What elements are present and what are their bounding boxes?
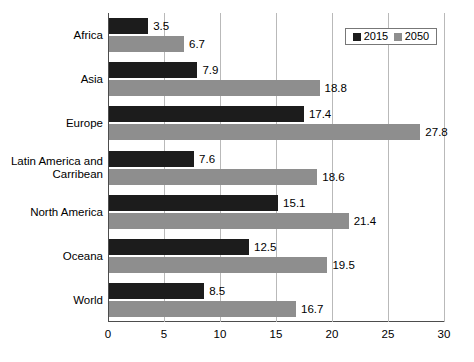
category-label-asia: Asia	[0, 73, 103, 86]
bar-value-label-2050-oceana: 19.5	[332, 257, 354, 273]
bar-2015-north-america	[109, 195, 278, 211]
bar-value-label-2015-north-america: 15.1	[283, 195, 305, 211]
category-label-line: Oceana	[0, 249, 103, 262]
category-label-latin-america-and-carribean: Latin America andCarribean	[0, 155, 103, 181]
bar-2015-world	[109, 283, 204, 299]
bar-2050-latin-america-and-carribean	[109, 169, 317, 185]
bar-2015-africa	[109, 18, 148, 34]
bar-value-label-2050-world: 16.7	[301, 301, 323, 317]
gridline-15	[276, 13, 277, 322]
category-label-line: World	[0, 293, 103, 306]
plot-area: 3.56.77.918.817.427.87.618.615.121.412.5…	[108, 13, 444, 322]
category-label-north-america: North America	[0, 205, 103, 218]
bar-value-label-2050-africa: 6.7	[189, 36, 205, 52]
x-tick-label-5: 5	[144, 327, 184, 341]
legend-swatch-icon-2050	[394, 33, 402, 41]
category-label-africa: Africa	[0, 29, 103, 42]
x-tick-label-20: 20	[312, 327, 352, 341]
gridline-25	[388, 13, 389, 322]
bar-value-label-2050-north-america: 21.4	[354, 213, 376, 229]
bar-2050-asia	[109, 80, 320, 96]
category-label-line: North America	[0, 205, 103, 218]
bar-value-label-2015-europe: 17.4	[309, 106, 331, 122]
legend-label-2015: 2015	[364, 31, 388, 42]
x-tick-label-15: 15	[256, 327, 296, 341]
gridline-30	[444, 13, 445, 322]
category-label-world: World	[0, 293, 103, 306]
legend-item-2050: 2050	[394, 31, 429, 42]
bar-chart: 3.56.77.918.817.427.87.618.615.121.412.5…	[0, 0, 474, 362]
bar-2015-oceana	[109, 239, 249, 255]
category-label-line: Europe	[0, 117, 103, 130]
gridline-10	[220, 13, 221, 322]
bar-2050-europe	[109, 124, 420, 140]
x-tick-label-30: 30	[424, 327, 464, 341]
bar-value-label-2050-europe: 27.8	[425, 124, 447, 140]
bar-2050-north-america	[109, 213, 349, 229]
bar-2015-asia	[109, 62, 197, 78]
category-label-line: Asia	[0, 73, 103, 86]
gridline-20	[332, 13, 333, 322]
y-axis-line	[108, 13, 109, 322]
bar-value-label-2015-africa: 3.5	[153, 18, 169, 34]
category-label-line: Africa	[0, 29, 103, 42]
gridline-5	[164, 13, 165, 322]
bar-2050-africa	[109, 36, 184, 52]
bar-value-label-2050-asia: 18.8	[325, 80, 347, 96]
chart-legend: 2015 2050	[345, 28, 437, 45]
x-tick-label-25: 25	[368, 327, 408, 341]
bar-value-label-2015-asia: 7.9	[202, 62, 218, 78]
category-label-oceana: Oceana	[0, 249, 103, 262]
legend-label-2050: 2050	[405, 31, 429, 42]
legend-item-2015: 2015	[353, 31, 388, 42]
x-tick-label-0: 0	[88, 327, 128, 341]
bar-value-label-2015-oceana: 12.5	[254, 239, 276, 255]
bar-value-label-2015-world: 8.5	[209, 283, 225, 299]
bar-value-label-2015-latin-america-and-carribean: 7.6	[199, 151, 215, 167]
legend-swatch-icon-2015	[353, 33, 361, 41]
bar-2050-world	[109, 301, 296, 317]
category-label-line: Latin America and	[0, 155, 103, 168]
x-tick-label-10: 10	[200, 327, 240, 341]
bar-2015-europe	[109, 106, 304, 122]
bar-2015-latin-america-and-carribean	[109, 151, 194, 167]
category-label-europe: Europe	[0, 117, 103, 130]
category-label-line: Carribean	[0, 168, 103, 181]
bar-value-label-2050-latin-america-and-carribean: 18.6	[322, 169, 344, 185]
bar-2050-oceana	[109, 257, 327, 273]
